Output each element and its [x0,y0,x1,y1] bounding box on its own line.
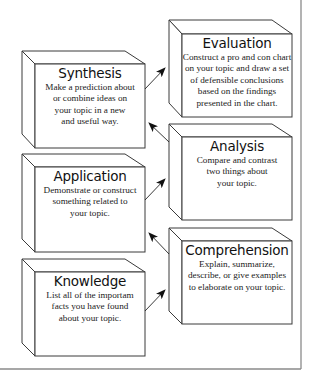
comprehension-desc-line: Explain, summarize, [182,259,292,270]
application-label: Application Demonstrate or construct som… [35,169,145,219]
application-desc-line: Demonstrate or construct [35,185,145,196]
evaluation-title: Evaluation [182,36,292,51]
analysis-desc-line: two things about [182,166,292,177]
bloom-taxonomy-diagram: Evaluation Construct a pro and con chart… [0,0,314,377]
knowledge-label: Knowledge List all of the importam facts… [35,274,145,324]
synthesis-label: Synthesis Make a prediction about or com… [35,66,145,128]
evaluation-label: Evaluation Construct a pro and con chart… [182,36,292,109]
application-desc-line: your topic. [35,208,145,219]
synthesis-desc-line: your topic in a new [35,105,145,116]
arrow-comprehension-to-application [149,233,169,254]
synthesis-desc-line: Make a prediction about [35,82,145,93]
arrow-analysis-to-synthesis [149,123,169,142]
analysis-title: Analysis [182,139,292,154]
arrow-application-to-analysis [145,179,165,200]
analysis-desc-line: your topic. [182,178,292,189]
arrow-synthesis-to-evaluation [145,68,165,89]
synthesis-title: Synthesis [35,66,145,81]
comprehension-title: Comprehension [182,243,292,258]
application-title: Application [35,169,145,184]
analysis-desc-line: Compare and contrast [182,155,292,166]
comprehension-label: Comprehension Explain, summarize, descri… [182,243,292,293]
synthesis-desc-line: and useful way. [35,116,145,127]
evaluation-desc-line: presented in the chart. [182,98,292,109]
application-desc-line: something related to [35,196,145,207]
evaluation-desc-line: of defensible conclusions [182,75,292,86]
knowledge-desc-line: about your topic. [35,313,145,324]
comprehension-desc-line: to elaborate on your topic. [182,282,292,293]
arrow-knowledge-to-comprehension [145,290,165,311]
evaluation-desc-line: based on the findings [182,86,292,97]
knowledge-desc-line: facts you have found [35,301,145,312]
knowledge-title: Knowledge [35,274,145,289]
evaluation-desc-line: on your topic and draw a set [182,63,292,74]
synthesis-desc-line: or combine ideas on [35,93,145,104]
comprehension-desc-line: describe, or give examples [182,270,292,281]
knowledge-desc-line: List all of the importam [35,290,145,301]
analysis-label: Analysis Compare and contrast two things… [182,139,292,189]
evaluation-desc-line: Construct a pro and con chart [182,52,292,63]
